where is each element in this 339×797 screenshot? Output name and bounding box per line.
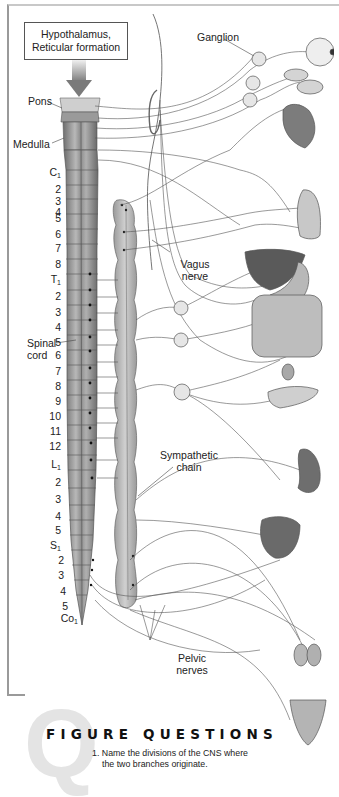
adrenal-gland-icon [282,364,294,380]
sympathetic-chain [113,200,137,608]
q-watermark-icon: Q [24,704,99,784]
segment-s4: 4 [38,585,66,597]
pelvic-label-line2: nerves [172,664,212,676]
question-1-line1: 1. Name the divisions of the CNS where [92,748,248,759]
segment-l4: 4 [33,510,61,522]
figure-question-1: 1. Name the divisions of the CNS where t… [92,748,248,769]
segment-t3: 3 [33,306,61,318]
segment-t10: 10 [33,410,61,422]
vagus-label-line2: nerve [180,270,210,282]
segment-t1: T1 [33,273,61,289]
segment-c6: 6 [33,228,61,240]
segment-s5: 5 [40,600,68,612]
kidney-icon [298,449,320,492]
segment-l3: 3 [33,493,61,505]
segment-s1: S1 [33,539,61,555]
sympathetic-label-line1: Sympathetic [157,449,221,461]
segment-l2: 2 [33,476,61,488]
segment-t11: 11 [33,425,61,437]
head-outline [147,14,161,270]
intestines-icon [252,295,322,357]
segment-c5: 5 [33,212,61,224]
segment-t4: 4 [33,321,61,333]
bladder-icon [261,517,300,558]
segment-c2: 2 [33,183,61,195]
segment-s2: 2 [36,554,64,566]
segment-t7: 7 [33,365,61,377]
pons-label: Pons [28,95,52,107]
heart-icon [283,104,315,148]
medulla-label: Medulla [13,138,50,150]
vagus-label-line1: Vagus [180,258,210,270]
reticular-formation-label: Reticular formation [25,41,127,54]
segment-c1: C1 [33,166,61,182]
pelvic-label-line1: Pelvic [172,652,212,664]
salivary-gland-icon [284,69,323,94]
segment-t5: 5 [33,336,61,348]
segment-c8: 8 [33,258,61,270]
brainstem [60,98,100,150]
uterus-icon [290,700,326,745]
segment-co1: Co1 [50,612,78,628]
pelvic-nerves-label: Pelvic nerves [172,652,212,676]
spinal-cord [64,122,98,625]
question-1-line2: the two branches originate. [92,759,248,770]
hypothalamus-box: Hypothalamus, Reticular formation [24,22,128,60]
segment-t8: 8 [33,380,61,392]
testes-icon [294,644,321,666]
ganglion-label: Ganglion [197,31,239,43]
segment-t6: 6 [33,349,61,361]
segment-l5: 5 [33,524,61,536]
segment-s3: 3 [36,569,64,581]
pancreas-icon [268,386,318,408]
figure-questions-title: FIGURE QUESTIONS [46,726,278,742]
sympathetic-chain-label: Sympathetic chain [157,449,221,473]
segment-t12: 12 [33,440,61,452]
segment-c7: 7 [33,242,61,254]
sympathetic-label-line2: chain [157,461,221,473]
segment-t9: 9 [33,395,61,407]
segment-l1: L1 [33,458,61,474]
vagus-nerve-label: Vagus nerve [180,258,210,282]
organs [245,38,334,745]
hypothalamus-label: Hypothalamus, [25,28,127,41]
descending-arrow [66,60,92,97]
eye-icon [306,38,334,66]
lung-icon [297,190,320,239]
segment-t2: 2 [33,290,61,302]
